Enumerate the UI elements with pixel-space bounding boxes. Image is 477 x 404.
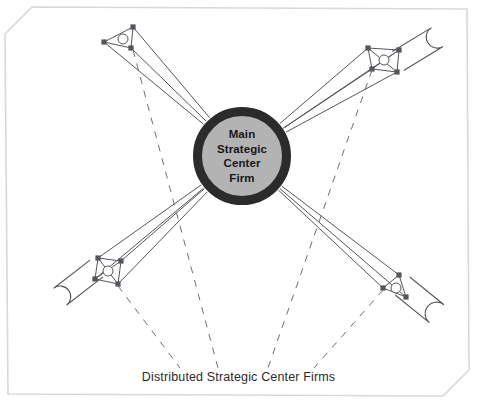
- spoke-top-right-3: [286, 72, 397, 132]
- diagram-stage: Main Strategic Center Firm Distributed S…: [0, 0, 477, 404]
- dashed-connector-0: [133, 50, 218, 368]
- cluster-node-top-right-0: [365, 45, 370, 50]
- dashed-connector-1: [118, 286, 180, 368]
- spoke-top-left-0: [104, 42, 203, 124]
- cluster-edge-bottom-left: [118, 261, 121, 284]
- cluster-edge-bottom-left: [95, 258, 98, 279]
- cluster-node-bottom-right-1: [396, 272, 401, 277]
- spoke-bottom-left-2: [95, 188, 204, 279]
- cluster-node-top-left-1: [130, 24, 135, 29]
- cluster-node-bottom-left-2: [92, 276, 97, 281]
- cluster-node-bottom-left-3: [115, 281, 120, 286]
- spoke-top-right-2: [284, 69, 372, 128]
- diagram-caption: Distributed Strategic Center Firms: [0, 370, 477, 384]
- spoke-top-left-1: [133, 27, 210, 118]
- cluster-node-top-right-1: [396, 47, 401, 52]
- cluster-loop-bottom-left: [54, 260, 103, 305]
- dashed-connector-2: [268, 70, 372, 368]
- cluster-inner-circle-bottom-left: [103, 266, 113, 276]
- cluster-inner-circle-bottom-right: [391, 283, 401, 293]
- spoke-bottom-left-3: [118, 192, 207, 284]
- cluster-edge-top-right: [397, 50, 399, 72]
- cluster-edge-top-right: [368, 48, 399, 50]
- spoke-bottom-left-0: [98, 185, 201, 258]
- cluster-inner-circle-top-right: [379, 55, 389, 65]
- spoke-top-left-2: [131, 48, 206, 121]
- cluster-inner-circle-top-left: [118, 34, 128, 44]
- cluster-node-top-left-2: [128, 45, 133, 50]
- spoke-bottom-left-1: [121, 189, 204, 261]
- cluster-node-bottom-right-2: [403, 294, 408, 299]
- cluster-node-bottom-left-1: [118, 258, 123, 263]
- cluster-node-bottom-right-0: [380, 285, 385, 290]
- cluster-edge-top-left: [131, 27, 133, 48]
- spoke-top-right-0: [280, 48, 368, 123]
- spoke-bottom-right-0: [279, 190, 383, 288]
- cluster-node-bottom-left-0: [95, 255, 100, 260]
- spoke-bottom-right-1: [282, 186, 399, 275]
- dashed-connector-3: [314, 290, 383, 368]
- hub-circle: [198, 112, 287, 201]
- cluster-loop-bottom-right: [395, 277, 444, 323]
- cluster-node-top-right-3: [394, 69, 399, 74]
- diagram-canvas: [0, 0, 477, 404]
- cluster-node-top-left-0: [101, 39, 106, 44]
- spoke-bottom-right-2: [280, 189, 406, 297]
